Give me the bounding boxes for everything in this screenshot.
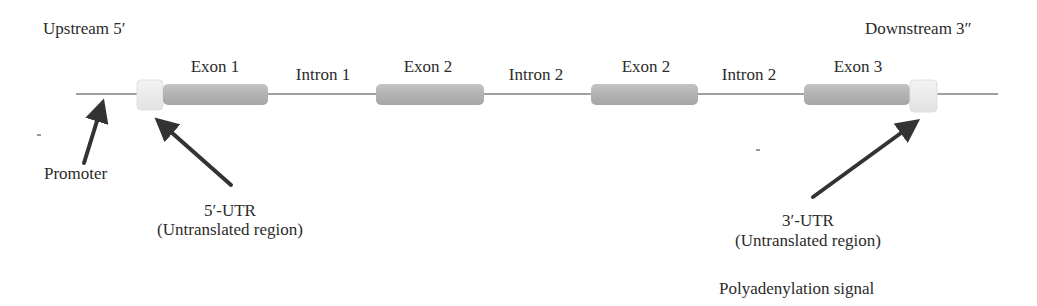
intron-1-label: Intron 1 bbox=[273, 65, 373, 85]
gene-structure-diagram bbox=[0, 0, 1037, 306]
exon-3-label: Exon 3 bbox=[808, 57, 908, 77]
intron-2a-label: Intron 2 bbox=[486, 65, 586, 85]
intron-2b-label: Intron 2 bbox=[699, 65, 799, 85]
utr5-box bbox=[137, 80, 163, 110]
polyadenylation-label: Polyadenylation signal bbox=[719, 279, 874, 299]
promoter-label: Promoter bbox=[44, 164, 107, 184]
exon-3-box bbox=[804, 84, 910, 105]
exon-2a-label: Exon 2 bbox=[378, 57, 478, 77]
utr3-box bbox=[910, 80, 937, 112]
exon-2a-box bbox=[376, 84, 484, 105]
scan-speck bbox=[37, 134, 41, 136]
utr3-subtitle: (Untranslated region) bbox=[713, 231, 903, 251]
utr3-arrow-icon bbox=[813, 125, 912, 197]
utr5-title: 5′-UTR bbox=[135, 201, 325, 221]
downstream-label: Downstream 3″ bbox=[865, 19, 972, 39]
upstream-label: Upstream 5′ bbox=[43, 19, 126, 39]
scan-speck bbox=[756, 149, 760, 151]
exon-1-box bbox=[163, 84, 268, 105]
exon-2b-box bbox=[591, 84, 698, 105]
utr3-title: 3′-UTR bbox=[713, 211, 903, 231]
exon-1-label: Exon 1 bbox=[165, 57, 265, 77]
utr5-subtitle: (Untranslated region) bbox=[135, 220, 325, 240]
utr5-arrow-icon bbox=[162, 124, 231, 185]
promoter-arrow-icon bbox=[84, 108, 101, 163]
exon-2b-label: Exon 2 bbox=[596, 57, 696, 77]
